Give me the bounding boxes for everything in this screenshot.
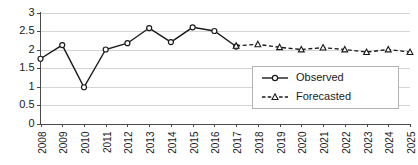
y-axis: 00.511.522.53 bbox=[19, 6, 40, 129]
x-tick-label: 2012 bbox=[123, 131, 134, 154]
data-point-forecasted-2023 bbox=[364, 49, 370, 54]
data-point-forecasted-2025 bbox=[407, 49, 413, 54]
y-tick-label: 1.5 bbox=[19, 61, 34, 73]
x-tick-label: 2010 bbox=[80, 131, 91, 154]
data-point-observed-2009 bbox=[60, 43, 65, 48]
chart-legend: ObservedForecasted bbox=[253, 67, 399, 109]
x-tick-label: 2022 bbox=[341, 131, 352, 154]
data-point-forecasted-2019 bbox=[277, 44, 283, 49]
y-tick-label: 0.5 bbox=[19, 98, 34, 110]
x-tick-label: 2015 bbox=[189, 131, 200, 154]
data-point-forecasted-2022 bbox=[342, 46, 348, 51]
line-chart: 00.511.522.53 20082009201020112012201320… bbox=[0, 0, 418, 165]
legend-label-forecasted: Forecasted bbox=[296, 90, 351, 102]
y-tick-label: 2.5 bbox=[19, 24, 34, 36]
x-tick-label: 2014 bbox=[167, 131, 178, 154]
x-tick-label: 2019 bbox=[276, 131, 287, 154]
data-point-observed-2013 bbox=[147, 26, 152, 31]
series-line-observed bbox=[41, 27, 237, 87]
x-axis: 2008200920102011201220132014201520162017… bbox=[37, 124, 417, 154]
data-point-observed-2014 bbox=[168, 40, 173, 45]
data-point-forecasted-2024 bbox=[385, 46, 391, 51]
x-tick-label: 2023 bbox=[363, 131, 374, 154]
x-tick-label: 2018 bbox=[254, 131, 265, 154]
data-point-observed-2008 bbox=[38, 56, 43, 61]
x-tick-label: 2025 bbox=[406, 131, 417, 154]
y-tick-label: 3 bbox=[28, 6, 34, 18]
x-tick-label: 2011 bbox=[102, 131, 113, 153]
x-tick-label: 2016 bbox=[210, 131, 221, 154]
x-tick-label: 2017 bbox=[232, 131, 243, 154]
y-tick-label: 1 bbox=[28, 80, 34, 92]
data-point-observed-2016 bbox=[212, 29, 217, 34]
data-point-forecasted-2021 bbox=[320, 45, 326, 50]
data-point-observed-2015 bbox=[190, 25, 195, 30]
x-tick-label: 2021 bbox=[319, 131, 330, 154]
chart-container: 00.511.522.53 20082009201020112012201320… bbox=[0, 0, 418, 165]
x-tick-label: 2020 bbox=[297, 131, 308, 154]
data-point-forecasted-2017 bbox=[233, 43, 239, 48]
data-point-observed-2011 bbox=[103, 47, 108, 52]
data-point-forecasted-2020 bbox=[298, 46, 304, 51]
data-point-forecasted-2018 bbox=[255, 41, 261, 46]
x-tick-label: 2009 bbox=[58, 131, 69, 154]
data-point-observed-2012 bbox=[125, 41, 130, 46]
x-tick-label: 2013 bbox=[145, 131, 156, 154]
legend-marker-observed bbox=[272, 75, 277, 80]
x-tick-label: 2008 bbox=[37, 131, 48, 154]
x-tick-label: 2024 bbox=[384, 131, 395, 154]
data-point-observed-2010 bbox=[81, 85, 86, 90]
legend-label-observed: Observed bbox=[296, 71, 344, 83]
y-tick-label: 2 bbox=[28, 43, 34, 55]
y-tick-label: 0 bbox=[28, 117, 34, 129]
